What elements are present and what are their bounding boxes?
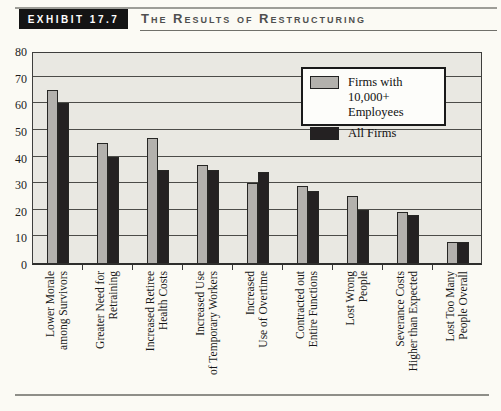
y-axis-tick-label: 60 [1,99,27,111]
x-category-label: Lost WrongPeople [344,271,370,391]
x-category-label-line: Use of Overtime [257,271,270,391]
x-category-label-line: Health Costs [157,271,170,391]
bar-all-firms [208,170,219,263]
bar-large-firms [147,138,158,263]
x-category-label: Contracted outEntire Functions [294,271,320,391]
legend-item-all-firms: All Firms [310,126,437,141]
x-category-label-line: Increased Retiree [144,271,157,391]
x-category-label-line: People Overall [457,271,470,391]
x-axis-tick [132,265,133,270]
x-category-label-line: Lower Morale [44,271,57,391]
legend-swatch-large-firms [310,76,339,89]
x-category-label: Increased RetireeHealth Costs [144,271,170,391]
x-category-label: Severance CostsHigher than Expected [394,271,420,391]
x-category-label-line: Higher than Expected [407,271,420,391]
bar-all-firms [308,191,319,263]
x-category-label: Greater Need forRetraining [94,271,120,391]
x-category-label-line: People [357,271,370,391]
bar-large-firms [97,143,108,263]
x-category-label: Lower Moraleamong Survivors [44,271,70,391]
x-category-label-line: Lost Too Many [444,271,457,391]
x-axis-tick [232,265,233,270]
y-axis-tick-label: 20 [1,206,27,218]
bar-all-firms [358,210,369,263]
x-category-label-line: of Temporary Workers [207,271,220,391]
x-category-label-line: Retraining [107,271,120,391]
legend-item-large-firms: Firms with 10,000+ Employees [310,75,437,120]
y-axis-tick-label: 70 [1,73,27,85]
x-category-label-line: among Survivors [57,271,70,391]
bar-all-firms [458,242,469,263]
x-axis-tick [182,265,183,270]
x-category-label-line: Greater Need for [94,271,107,391]
bar-all-firms [158,170,169,263]
legend-swatch-all-firms [310,127,339,140]
exhibit-page: EXHIBIT 17.7 The Results of Restructurin… [0,0,501,411]
bar-all-firms [108,157,119,264]
y-axis-tick-label: 80 [1,46,27,58]
bar-large-firms [397,212,408,263]
x-category-label-line: Increased [244,271,257,391]
x-axis-tick [282,265,283,270]
x-category-label-line: Contracted out [294,271,307,391]
x-axis-tick [382,265,383,270]
y-axis-tick-label: 10 [1,232,27,244]
y-axis-tick-label: 30 [1,179,27,191]
legend: Firms with 10,000+ Employees All Firms [301,67,446,126]
bar-large-firms [247,183,258,263]
bar-large-firms [197,165,208,264]
x-category-label-line: Entire Functions [307,271,320,391]
legend-label-all-firms: All Firms [348,126,437,141]
y-axis-tick-label: 40 [1,153,27,165]
x-axis-tick [432,265,433,270]
bar-all-firms [258,172,269,263]
x-axis-tick [332,265,333,270]
x-category-label-line: Lost Wrong [344,271,357,391]
x-category-label: Lost Too ManyPeople Overall [444,271,470,391]
bar-all-firms [58,103,69,263]
legend-label-large-firms: Firms with 10,000+ Employees [348,75,437,120]
bar-large-firms [297,186,308,263]
bar-large-firms [47,90,58,263]
bar-large-firms [447,242,458,263]
y-axis-tick-label: 0 [1,259,27,271]
x-category-label: IncreasedUse of Overtime [244,271,270,391]
x-category-label-line: Increased Use [194,271,207,391]
bar-all-firms [408,215,419,263]
y-axis-tick-label: 50 [1,126,27,138]
x-category-label-line: Severance Costs [394,271,407,391]
bottom-divider [15,394,489,396]
bar-chart: Firms with 10,000+ Employees All Firms 0… [0,0,501,411]
x-category-label: Increased Useof Temporary Workers [194,271,220,391]
bar-large-firms [347,196,358,263]
x-axis-tick [82,265,83,270]
